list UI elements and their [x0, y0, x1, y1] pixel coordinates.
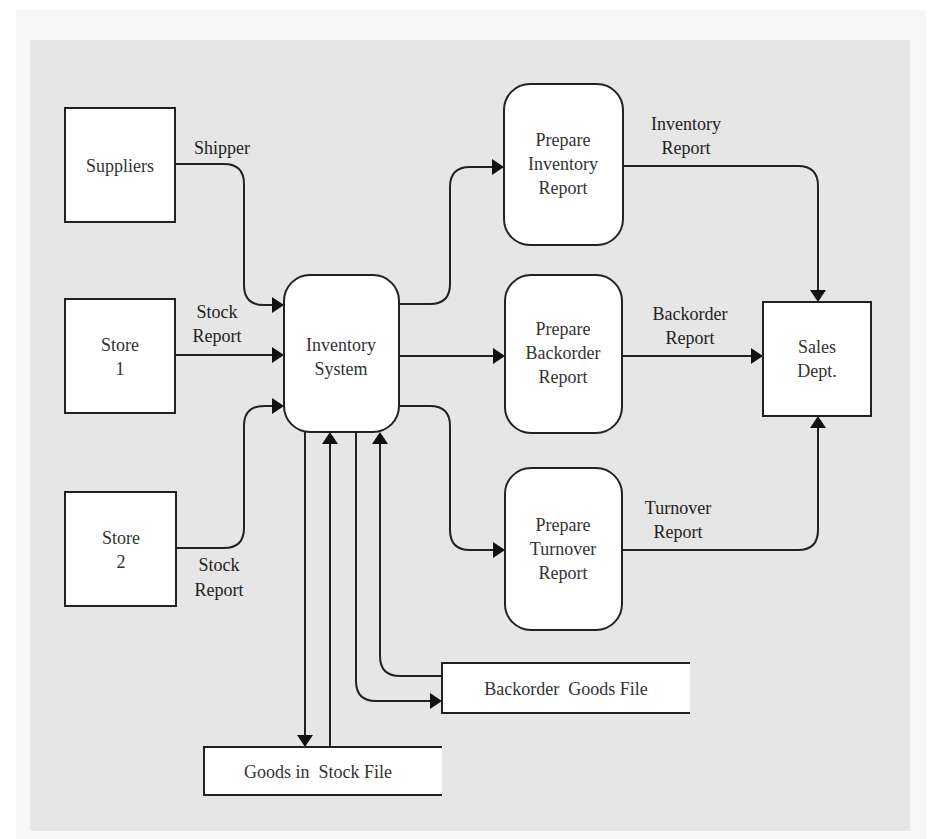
arrow-head-icon — [272, 347, 284, 363]
entity-store-2[interactable]: Store 2 — [65, 492, 176, 606]
arrow-head-icon — [493, 348, 505, 364]
flow-label-stock-report-2-line1: Stock — [198, 555, 239, 575]
arrow-head-icon — [810, 416, 826, 428]
process-prepare-inventory-line3: Report — [539, 178, 588, 198]
flow-label-inventory-report-line2: Report — [662, 138, 711, 158]
entity-store-2-label-line2: 2 — [117, 552, 126, 572]
arrow-head-icon — [751, 348, 763, 364]
data-flow-diagram: Suppliers Store 1 Store 2 Sales Dept. In… — [0, 0, 932, 839]
flow-label-stock-report-1-line1: Stock — [196, 302, 237, 322]
flow-inventory-report — [623, 166, 818, 290]
process-inventory-system[interactable]: Inventory System — [284, 275, 399, 432]
arrow-head-icon — [272, 398, 284, 414]
datastore-backorder-goods-file[interactable]: Backorder Goods File — [442, 663, 690, 713]
entity-store-1[interactable]: Store 1 — [65, 299, 175, 413]
flow-shipper — [175, 164, 272, 305]
arrow-head-icon — [322, 432, 338, 444]
flow-to-prepare-turnover — [399, 406, 493, 550]
entity-store-1-label-line2: 1 — [116, 359, 125, 379]
arrow-head-icon — [297, 735, 313, 747]
process-prepare-turnover-report[interactable]: Prepare Turnover Report — [505, 468, 622, 630]
arrow-head-icon — [372, 432, 388, 444]
process-prepare-backorder-line2: Backorder — [526, 343, 601, 363]
process-prepare-inventory-line1: Prepare — [536, 130, 591, 150]
process-prepare-turnover-line3: Report — [539, 563, 588, 583]
datastore-goods-in-stock-file[interactable]: Goods in Stock File — [204, 747, 442, 795]
datastore-goods-in-stock-label: Goods in Stock File — [244, 762, 392, 782]
flow-label-backorder-report-line1: Backorder — [653, 304, 728, 324]
process-prepare-inventory-report[interactable]: Prepare Inventory Report — [504, 84, 623, 245]
process-inventory-system-line2: System — [314, 359, 367, 379]
process-prepare-backorder-report[interactable]: Prepare Backorder Report — [505, 275, 622, 433]
process-prepare-turnover-line1: Prepare — [536, 515, 591, 535]
entity-sales-label-line2: Dept. — [797, 361, 837, 381]
entity-suppliers[interactable]: Suppliers — [65, 108, 175, 222]
flow-label-turnover-report-line2: Report — [654, 522, 703, 542]
process-prepare-inventory-line2: Inventory — [528, 154, 598, 174]
flow-from-backorder-goods — [380, 444, 442, 676]
entity-store-2-label-line1: Store — [102, 528, 140, 548]
flow-label-stock-report-1-line2: Report — [193, 326, 242, 346]
flow-stock-report-2 — [176, 406, 272, 548]
entity-suppliers-label: Suppliers — [86, 156, 154, 176]
arrow-head-icon — [430, 693, 442, 709]
entity-sales-label-line1: Sales — [798, 337, 836, 357]
process-inventory-system-line1: Inventory — [306, 335, 376, 355]
flow-label-backorder-report-line2: Report — [666, 328, 715, 348]
flow-label-shipper: Shipper — [194, 138, 250, 158]
arrow-head-icon — [810, 290, 826, 302]
process-prepare-backorder-line1: Prepare — [536, 319, 591, 339]
arrow-head-icon — [492, 159, 504, 175]
flow-to-prepare-inventory — [399, 167, 492, 304]
datastore-backorder-goods-label: Backorder Goods File — [484, 679, 647, 699]
process-prepare-backorder-line3: Report — [539, 367, 588, 387]
entity-store-1-label-line1: Store — [101, 335, 139, 355]
flow-label-inventory-report-line1: Inventory — [651, 114, 721, 134]
process-prepare-turnover-line2: Turnover — [530, 539, 596, 559]
arrow-head-icon — [493, 542, 505, 558]
flow-label-turnover-report-line1: Turnover — [645, 498, 711, 518]
flow-label-stock-report-2-line2: Report — [195, 580, 244, 600]
arrow-head-icon — [272, 297, 284, 313]
flow-turnover-report — [622, 428, 818, 550]
entity-sales-dept[interactable]: Sales Dept. — [763, 302, 871, 416]
flow-to-backorder-goods — [356, 432, 430, 701]
